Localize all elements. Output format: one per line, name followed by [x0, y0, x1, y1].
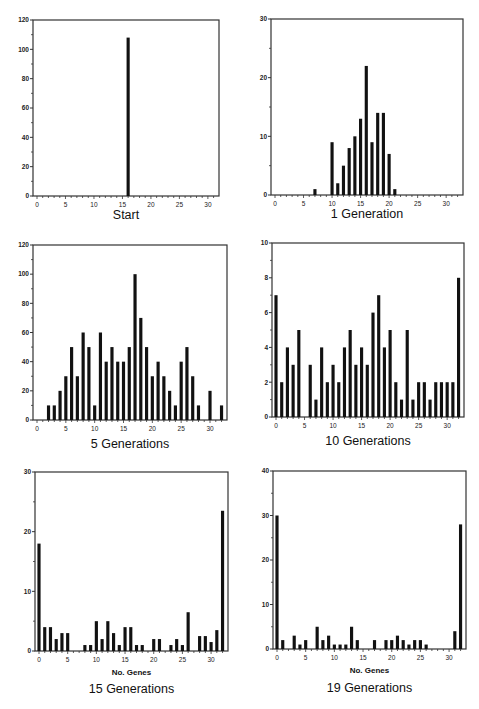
bar — [350, 627, 353, 649]
x-tick-label: 30 — [204, 201, 212, 208]
chart-gen19-title: 19 Generations — [273, 681, 466, 695]
bar — [122, 362, 125, 420]
x-tick-label: 20 — [388, 654, 396, 661]
x-tick-label: 0 — [35, 425, 39, 432]
bar — [359, 119, 362, 195]
chart-gen10-plot: 0246810051015202530 — [240, 235, 479, 455]
bar — [428, 400, 431, 417]
x-tick-label: 5 — [66, 656, 70, 663]
bar — [274, 295, 277, 417]
bar — [197, 405, 200, 420]
x-tick-label: 15 — [358, 422, 366, 429]
x-tick-label: 25 — [417, 654, 425, 661]
bar — [457, 278, 460, 417]
bar — [208, 391, 211, 420]
bar — [353, 136, 356, 195]
bar — [133, 274, 136, 420]
bar — [373, 640, 376, 649]
plot-frame — [273, 471, 466, 649]
bar — [43, 627, 46, 651]
x-tick-label: 15 — [357, 200, 365, 207]
bar — [326, 382, 329, 417]
y-tick-label: 0 — [25, 416, 29, 423]
y-tick-label: 30 — [24, 468, 32, 475]
chart-start: 020406080100120051015202530 Start — [0, 0, 240, 230]
bar — [168, 391, 171, 420]
chart-gen5: 020406080100120051015202530 5 Generation… — [0, 235, 240, 455]
bar — [141, 645, 144, 651]
bar — [95, 621, 98, 651]
bar — [293, 636, 296, 649]
bar — [60, 633, 63, 651]
bar — [198, 636, 201, 651]
bar — [110, 347, 113, 420]
x-tick-label: 30 — [444, 422, 452, 429]
y-tick-label: 20 — [22, 387, 30, 394]
bar — [187, 612, 190, 651]
y-tick-label: 100 — [18, 46, 29, 53]
y-tick-label: 6 — [264, 309, 268, 316]
x-tick-label: 20 — [149, 425, 157, 432]
bar — [446, 382, 449, 417]
bar — [281, 640, 284, 649]
x-tick-label: 0 — [35, 201, 39, 208]
y-tick-label: 2 — [264, 379, 268, 386]
bar — [58, 391, 61, 420]
bar — [371, 313, 374, 417]
bar — [105, 362, 108, 420]
bar — [376, 113, 379, 195]
bar — [337, 382, 340, 417]
bar — [55, 639, 58, 651]
bar — [116, 362, 119, 420]
y-tick-label: 20 — [260, 74, 268, 81]
bar — [157, 362, 160, 420]
bar — [321, 640, 324, 649]
bar — [331, 365, 334, 417]
bar — [423, 382, 426, 417]
x-tick-label: 0 — [274, 422, 278, 429]
bar — [76, 376, 79, 420]
x-tick-label: 30 — [206, 425, 214, 432]
y-tick-label: 60 — [22, 104, 30, 111]
chart-gen1: 0102030051015202530 1 Generation — [240, 0, 479, 230]
x-tick-label: 0 — [273, 200, 277, 207]
bar — [349, 330, 352, 417]
bar — [204, 636, 207, 651]
x-tick-label: 25 — [178, 425, 186, 432]
x-tick-label: 20 — [386, 422, 394, 429]
bar — [118, 645, 121, 651]
bar — [82, 333, 85, 421]
bar — [139, 318, 142, 420]
y-tick-label: 0 — [263, 191, 267, 198]
y-tick-label: 40 — [22, 358, 30, 365]
bar — [175, 639, 178, 651]
chart-gen1-plot: 0102030051015202530 — [240, 0, 479, 230]
bar — [298, 645, 301, 649]
x-tick-label: 25 — [414, 200, 422, 207]
bar — [53, 405, 56, 420]
bar — [185, 347, 188, 420]
x-tick-label: 0 — [37, 656, 41, 663]
bar — [191, 376, 194, 420]
x-tick-label: 15 — [119, 201, 127, 208]
bar — [64, 376, 67, 420]
bar — [313, 189, 316, 195]
bar — [411, 400, 414, 417]
bar — [388, 154, 391, 195]
x-tick-label: 10 — [91, 425, 99, 432]
bar — [106, 621, 109, 651]
bar — [309, 365, 312, 417]
bar — [221, 511, 224, 651]
bar — [66, 633, 69, 651]
y-tick-label: 20 — [262, 556, 270, 563]
bar — [402, 640, 405, 649]
y-tick-label: 20 — [24, 528, 32, 535]
y-tick-label: 30 — [262, 512, 270, 519]
bar — [320, 347, 323, 417]
bar — [440, 382, 443, 417]
x-tick-label: 5 — [303, 422, 307, 429]
y-tick-label: 30 — [260, 15, 268, 22]
bar — [129, 627, 132, 651]
y-tick-label: 40 — [262, 467, 270, 474]
bar — [123, 627, 126, 651]
